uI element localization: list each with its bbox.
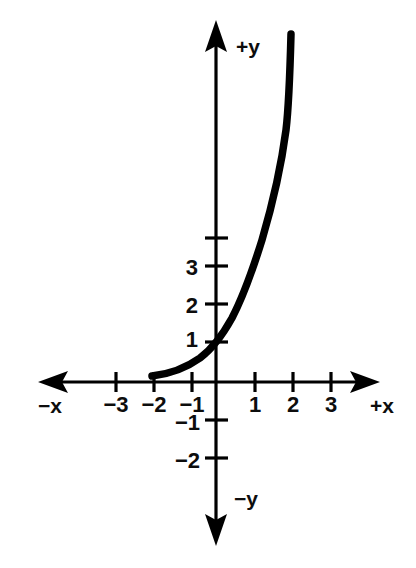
exponential-curve	[152, 34, 291, 376]
coordinate-plane-svg: −3 −2 −1 1 2 3 3 2 1 −1 −2 −x +x +y −y	[0, 0, 416, 568]
x-tick-label-neg3: −3	[103, 392, 128, 417]
y-axis-group	[205, 20, 227, 546]
axis-label-positive-x: +x	[370, 394, 394, 417]
x-tick-label-pos1: 1	[249, 392, 261, 417]
y-tick-label-pos1: 1	[186, 327, 198, 352]
x-tick-label-neg2: −2	[141, 392, 166, 417]
y-tick-label-pos3: 3	[186, 255, 198, 280]
y-tick-label-neg1: −1	[175, 410, 200, 435]
y-tick-label-pos2: 2	[186, 293, 198, 318]
x-tick-label-pos2: 2	[287, 392, 299, 417]
axis-label-negative-x: −x	[38, 394, 62, 417]
exponential-curve-group	[152, 34, 291, 376]
graph-figure: −3 −2 −1 1 2 3 3 2 1 −1 −2 −x +x +y −y	[0, 0, 416, 568]
axis-label-negative-y: −y	[234, 487, 258, 510]
y-tick-label-neg2: −2	[175, 448, 200, 473]
x-axis-group	[38, 371, 380, 393]
axis-label-positive-y: +y	[236, 35, 260, 58]
x-tick-label-pos3: 3	[325, 392, 337, 417]
